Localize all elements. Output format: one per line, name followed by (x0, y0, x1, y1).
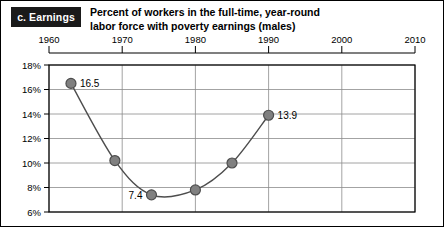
x-axis-tick-label: 1960 (38, 34, 59, 45)
y-axis-tick-label: 6% (27, 207, 41, 218)
data-point-marker (227, 158, 237, 168)
data-point-marker (146, 190, 156, 200)
x-axis-tick-label: 1990 (258, 34, 279, 45)
x-axis-ticks-group: 196019701980199020002010 (38, 34, 425, 53)
data-point-marker (264, 110, 274, 120)
data-point-marker (190, 185, 200, 195)
data-point-label: 16.5 (80, 78, 100, 89)
data-line-group (71, 83, 269, 197)
y-axis-tick-label: 12% (22, 133, 42, 144)
data-point-label: 13.9 (278, 110, 298, 121)
data-line (71, 83, 269, 197)
x-axis-tick-label: 2000 (331, 34, 352, 45)
figure-panel: c. Earnings Percent of workers in the fu… (0, 0, 444, 227)
data-point-marker (66, 78, 76, 88)
y-axis-tick-label: 10% (22, 158, 42, 169)
x-axis-tick-label: 1980 (185, 34, 206, 45)
x-axis-tick-label: 1970 (112, 34, 133, 45)
y-axis-tick-label: 14% (22, 109, 42, 120)
y-axis-tick-label: 8% (27, 182, 41, 193)
data-markers-group (66, 78, 274, 199)
y-axis-tick-label: 16% (22, 84, 42, 95)
axis-frame (49, 53, 415, 212)
y-axis-tick-label: 18% (22, 60, 42, 71)
data-point-label: 7.4 (129, 190, 143, 201)
line-chart: 196019701980199020002010 6%8%10%12%14%16… (1, 1, 444, 227)
gridlines-group (49, 65, 415, 212)
data-point-marker (110, 156, 120, 166)
y-axis-ticks-group: 6%8%10%12%14%16%18% (22, 60, 49, 218)
data-labels-group: 16.57.413.9 (80, 78, 298, 201)
x-axis-tick-label: 2010 (404, 34, 425, 45)
